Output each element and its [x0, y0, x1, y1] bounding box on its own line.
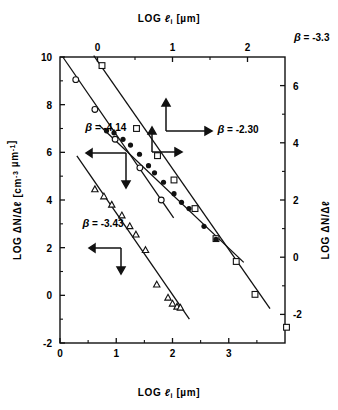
- data-point-open-triangle: [142, 247, 148, 253]
- data-point-filled-circle: [128, 142, 133, 147]
- svg-text:4: 4: [46, 195, 52, 206]
- data-point-open-square: [252, 291, 258, 297]
- data-point-open-square: [134, 126, 140, 132]
- data-point-open-square: [192, 206, 198, 212]
- data-point-open-square: [99, 63, 105, 69]
- data-point-filled-circle: [179, 200, 184, 205]
- svg-text:2: 2: [46, 243, 52, 254]
- svg-text:1: 1: [113, 348, 119, 359]
- beta-414: β = -4.14: [84, 121, 126, 133]
- data-point-filled-circle: [161, 180, 166, 185]
- data-point-filled-circle: [186, 206, 191, 211]
- beta-343: β = -3.43: [82, 217, 124, 229]
- data-point-open-triangle: [165, 294, 171, 300]
- data-point-open-circle: [92, 107, 98, 113]
- svg-text:8: 8: [46, 100, 52, 111]
- plot-svg: LOG ℓi [µm] LOG ℓi [µm] LOG ΔN/Δℓ [cm-3 …: [0, 0, 338, 410]
- arrow-left-upper: [86, 149, 130, 188]
- data-point-open-triangle: [101, 193, 107, 199]
- data-point-filled-circle: [120, 137, 125, 142]
- series-open-squares-right: [99, 63, 289, 330]
- svg-text:0: 0: [57, 348, 63, 359]
- svg-text:3: 3: [226, 348, 232, 359]
- top-axis-title: LOG ℓi [µm]: [138, 13, 200, 25]
- data-point-filled-circle: [213, 237, 218, 242]
- svg-text:10: 10: [41, 52, 53, 63]
- axis-tick-labels: 0123-20246810012-20246: [41, 42, 302, 359]
- beta-33: β = -3.3: [293, 31, 330, 43]
- data-point-open-triangle: [169, 300, 175, 306]
- data-point-open-triangle: [133, 231, 139, 237]
- data-point-open-triangle: [127, 223, 133, 229]
- data-point-filled-circle: [146, 163, 151, 168]
- data-point-open-triangle: [92, 186, 98, 192]
- data-point-open-circle: [73, 77, 79, 83]
- beta-230: β = -2.30: [217, 123, 259, 135]
- svg-text:2: 2: [245, 42, 251, 53]
- svg-text:6: 6: [293, 81, 299, 92]
- arrow-right-upper: [162, 99, 212, 135]
- svg-text:4: 4: [293, 138, 299, 149]
- data-point-open-circle: [158, 197, 164, 203]
- svg-text:0: 0: [95, 42, 101, 53]
- svg-text:1: 1: [170, 42, 176, 53]
- svg-text:0: 0: [46, 290, 52, 301]
- data-point-filled-circle: [152, 170, 157, 175]
- svg-text:2: 2: [170, 348, 176, 359]
- data-point-open-square: [284, 324, 290, 330]
- data-point-filled-circle: [171, 191, 176, 196]
- arrow-left-lower: [89, 244, 125, 274]
- svg-text:-2: -2: [293, 309, 302, 320]
- data-point-open-circle: [137, 165, 143, 171]
- fit-line-open-circles-upper-left: [63, 57, 174, 218]
- data-point-filled-circle: [137, 152, 142, 157]
- left-axis-title: LOG ΔN/Δℓ [cm-3 µm-1]: [6, 140, 23, 260]
- svg-text:2: 2: [293, 195, 299, 206]
- fit-line-filled-circles-right: [99, 125, 244, 262]
- right-axis-title: LOG ΔN/Δℓ: [320, 200, 331, 259]
- data-point-open-square: [233, 259, 239, 265]
- svg-text:6: 6: [46, 147, 52, 158]
- data-point-open-circle: [112, 136, 118, 142]
- data-point-open-square: [155, 153, 161, 159]
- bottom-axis-title: LOG ℓi [µm]: [138, 387, 200, 399]
- data-point-open-triangle: [154, 281, 160, 287]
- svg-text:0: 0: [293, 252, 299, 263]
- svg-text:-2: -2: [43, 338, 52, 349]
- figure-container: LOG ℓi [µm] LOG ℓi [µm] LOG ΔN/Δℓ [cm-3 …: [0, 0, 338, 410]
- data-point-filled-circle: [201, 224, 206, 229]
- data-point-open-triangle: [119, 212, 125, 218]
- data-point-open-square: [171, 177, 177, 183]
